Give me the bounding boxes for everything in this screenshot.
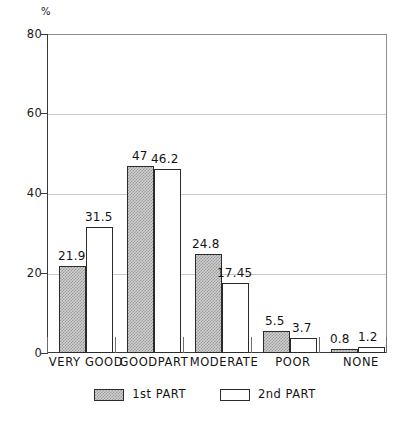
x-label-poor: POOR — [275, 357, 310, 369]
legend-item-2nd-part[interactable]: 2nd PART — [220, 389, 316, 401]
group-separator — [319, 337, 320, 353]
bar-poor-1st[interactable] — [263, 331, 290, 353]
bar-goodpart-2nd[interactable] — [154, 169, 181, 353]
bar-very-good-2nd[interactable] — [86, 227, 113, 353]
legend-swatch-icon-2nd-part — [220, 389, 250, 401]
bar-none-2nd[interactable] — [358, 347, 385, 353]
bar-very-good-1st[interactable] — [59, 266, 86, 353]
x-label-moderate: MODERATE — [190, 357, 259, 369]
bar-value-very-good-2nd: 31.5 — [85, 211, 113, 223]
y-tick-label-20: 20 — [12, 268, 42, 280]
chart-legend: 1st PART 2nd PART — [0, 389, 410, 401]
bar-goodpart-1st[interactable] — [127, 166, 154, 353]
group-separator — [251, 337, 252, 353]
bar-chart: % 80 60 40 20 0 21.9 31.5 47 46.2 24.8 — [0, 0, 410, 424]
group-separator — [386, 337, 387, 353]
group-separator — [183, 337, 184, 353]
group-separator — [47, 337, 48, 353]
bar-moderate-2nd[interactable] — [222, 283, 249, 353]
legend-label-2nd-part: 2nd PART — [258, 389, 316, 401]
y-axis-unit-label: % — [41, 7, 51, 17]
legend-label-1st-part: 1st PART — [132, 389, 186, 401]
bar-value-very-good-1st: 21.9 — [58, 250, 86, 262]
bars-layer: 21.9 31.5 47 46.2 24.8 17.45 5.5 3.7 0.8… — [47, 34, 387, 353]
bar-value-poor-2nd: 3.7 — [292, 322, 312, 334]
group-separator — [115, 337, 116, 353]
y-tick-label-60: 60 — [12, 108, 42, 120]
bar-value-goodpart-2nd: 46.2 — [151, 153, 179, 165]
legend-swatch-icon-1st-part — [94, 389, 124, 401]
bar-value-poor-1st: 5.5 — [265, 315, 285, 327]
x-axis-labels: VERY GOOD GOODPART MODERATE POOR NONE — [47, 357, 387, 373]
bar-value-moderate-1st: 24.8 — [192, 238, 220, 250]
bar-value-none-1st: 0.8 — [330, 333, 350, 345]
y-tick-label-0: 0 — [12, 348, 42, 360]
bar-value-none-2nd: 1.2 — [358, 331, 378, 343]
x-label-very-good: VERY GOOD — [49, 357, 123, 369]
y-tick-mark-0 — [41, 353, 48, 354]
bar-value-moderate-2nd: 17.45 — [217, 267, 252, 279]
bar-none-1st[interactable] — [331, 349, 358, 353]
y-tick-label-80: 80 — [12, 29, 42, 41]
x-label-none: NONE — [343, 357, 379, 369]
legend-item-1st-part[interactable]: 1st PART — [94, 389, 186, 401]
y-tick-label-40: 40 — [12, 188, 42, 200]
bar-poor-2nd[interactable] — [290, 338, 317, 353]
x-label-goodpart: GOODPART — [120, 357, 189, 369]
bar-value-goodpart-1st: 47 — [132, 150, 148, 162]
